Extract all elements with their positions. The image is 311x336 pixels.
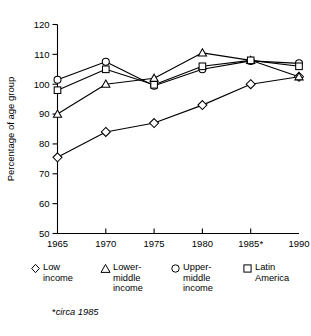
data-point — [150, 119, 159, 128]
legend-label: Lower- middle income — [113, 262, 143, 294]
legend-item-lower-middle-income: Lower- middle income — [100, 262, 170, 294]
legend-item-upper-middle-income: Upper- middle income — [170, 262, 242, 294]
series-triangle — [53, 49, 303, 117]
data-point — [198, 101, 207, 110]
chart-footnote: *circa 1985 — [52, 307, 99, 317]
y-tick-label: 90 — [39, 108, 50, 119]
data-point — [54, 87, 61, 94]
y-tick-label: 100 — [34, 79, 50, 90]
diamond-marker-icon — [30, 262, 43, 274]
data-point — [151, 82, 158, 89]
data-point — [53, 153, 62, 162]
data-point — [101, 127, 110, 136]
y-axis-title: Percentage of age group — [5, 77, 16, 182]
legend-label: Upper- middle income — [183, 262, 213, 294]
data-point — [199, 63, 206, 70]
data-point — [246, 80, 255, 89]
x-tick-label: 1985* — [238, 238, 263, 249]
chart-figure: 506070809010011012019651970197519801985*… — [0, 0, 311, 336]
y-tick-label: 120 — [34, 19, 50, 30]
legend-item-low-income: Low income — [30, 262, 100, 283]
data-point — [198, 49, 206, 56]
square-marker-icon — [242, 262, 255, 274]
x-tick-label: 1965 — [47, 238, 68, 249]
y-tick-label: 80 — [39, 138, 50, 149]
data-point — [54, 76, 61, 83]
x-tick-label: 1975 — [144, 238, 165, 249]
series-diamond — [53, 72, 304, 162]
data-point — [247, 57, 254, 64]
data-point — [103, 66, 110, 73]
data-point — [296, 63, 303, 70]
legend-label: Low income — [43, 262, 73, 283]
data-point — [150, 74, 158, 81]
footnote-text: circa 1985 — [56, 307, 99, 317]
triangle-marker-icon — [100, 262, 113, 274]
y-tick-label: 110 — [34, 49, 49, 60]
series-square — [54, 57, 302, 93]
circle-marker-icon — [170, 262, 183, 274]
x-tick-label: 1980 — [192, 238, 213, 249]
legend-label: Latin America — [255, 262, 289, 283]
x-tick-label: 1990 — [288, 238, 309, 249]
legend-item-latin-america: Latin America — [242, 262, 308, 283]
chart-legend: Low income Lower- middle income Upper- m… — [30, 262, 308, 294]
y-tick-label: 70 — [39, 168, 50, 179]
x-tick-label: 1970 — [95, 238, 116, 249]
data-point — [102, 58, 109, 65]
y-tick-label: 60 — [39, 198, 50, 209]
